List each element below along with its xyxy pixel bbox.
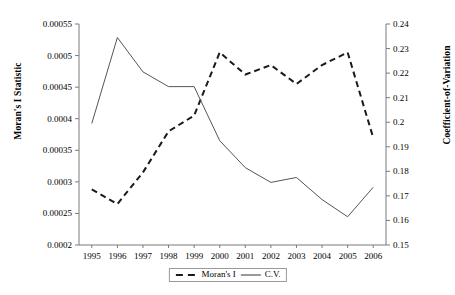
x-tick-label: 1999 [185, 251, 203, 261]
left-tick-label: 0.0005 [0, 51, 72, 61]
left-tick-label: 0.00045 [0, 82, 72, 92]
right-tick-label: 0.19 [393, 142, 409, 152]
legend-swatch-solid [240, 271, 262, 279]
x-tick-label: 1998 [160, 251, 178, 261]
chart-legend: Moran's IC.V. [168, 268, 286, 282]
right-tick-label: 0.16 [393, 215, 409, 225]
right-axis-title: Coefficient-of-Variation [442, 18, 452, 173]
right-tick-label: 0.2 [393, 117, 404, 127]
legend-item: C.V. [240, 270, 281, 279]
left-tick-label: 0.00035 [0, 145, 72, 155]
x-tick-label: 2006 [364, 251, 382, 261]
left-tick-label: 0.0002 [0, 240, 72, 250]
left-tick-label: 0.00055 [0, 19, 72, 29]
x-tick-label: 2000 [211, 251, 229, 261]
right-tick-label: 0.22 [393, 68, 409, 78]
left-tick-label: 0.00025 [0, 208, 72, 218]
right-tick-label: 0.17 [393, 191, 409, 201]
x-tick-label: 2003 [287, 251, 305, 261]
right-tick-label: 0.21 [393, 93, 409, 103]
legend-label: C.V. [265, 270, 281, 279]
x-tick-label: 2005 [339, 251, 357, 261]
legend-item: Moran's I [174, 270, 235, 279]
right-tick-label: 0.15 [393, 240, 409, 250]
left-tick-label: 0.0004 [0, 114, 72, 124]
chart-figure: Moran's I Statistic Coefficient-of-Varia… [0, 0, 455, 295]
right-tick-label: 0.24 [393, 19, 409, 29]
x-tick-label: 1996 [108, 251, 126, 261]
right-tick-label: 0.23 [393, 44, 409, 54]
x-tick-label: 1995 [83, 251, 101, 261]
legend-label: Moran's I [201, 270, 235, 279]
right-tick-label: 0.18 [393, 166, 409, 176]
x-tick-label: 2001 [236, 251, 254, 261]
x-tick-label: 2004 [313, 251, 331, 261]
x-tick-label: 1997 [134, 251, 152, 261]
left-tick-label: 0.0003 [0, 177, 72, 187]
series-line-moran-s-i [92, 52, 373, 204]
x-tick-label: 2002 [262, 251, 280, 261]
legend-swatch-dashed [174, 271, 198, 279]
